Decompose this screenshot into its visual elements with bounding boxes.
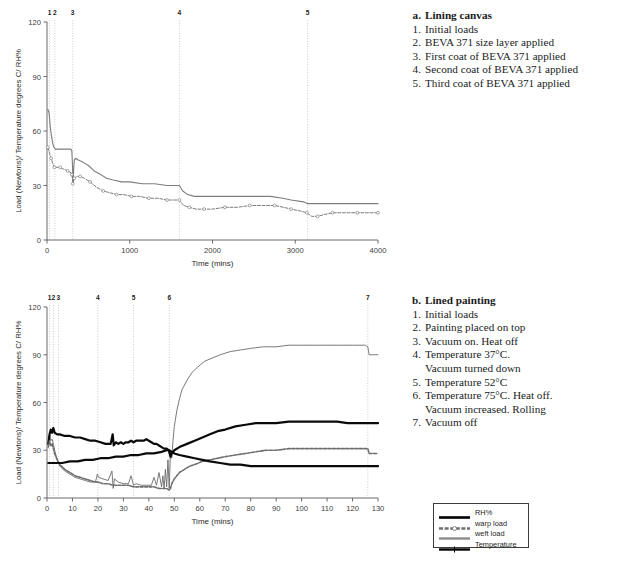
series-marker (305, 211, 308, 214)
x-axis-tick-label: 120 (346, 504, 359, 513)
caption-b-item: 7. Vacuum off (408, 416, 613, 430)
series-line-weft-load (48, 109, 378, 203)
caption-b-item-text: Vacuum off (425, 416, 613, 430)
series-marker (356, 211, 359, 214)
series-marker (71, 182, 74, 185)
y-axis-tick-label: 30 (33, 446, 41, 455)
series-line-warp-load (48, 147, 378, 216)
series-marker (46, 146, 49, 149)
series-marker (53, 166, 56, 169)
x-axis-tick-label: 50 (170, 504, 178, 513)
x-axis-tick-label: 3000 (287, 246, 304, 255)
caption-a-letter: a. (408, 9, 425, 23)
y-axis-title: Load (Newtons)/ Temperature degrees C/ R… (14, 321, 23, 485)
caption-a-item: 5. Third coat of BEVA 371 applied (408, 77, 613, 91)
event-marker-label: 2 (53, 9, 57, 16)
y-axis-tick-label: 60 (33, 399, 41, 408)
y-axis-tick-label: 30 (33, 182, 41, 191)
x-axis-tick-label: 20 (94, 504, 102, 513)
caption-b-item-continuation: Vacuum turned down (408, 362, 613, 376)
y-axis-tick-label: 0 (37, 236, 41, 245)
caption-b-item-text: Temperature 75°C. Heat off. (425, 389, 613, 403)
caption-b-item-num: 4. (408, 348, 425, 362)
caption-b-letter: b. (408, 294, 425, 308)
x-axis-tick-label: 0 (45, 504, 49, 513)
caption-b-item: 6. Temperature 75°C. Heat off. (408, 389, 613, 403)
series-marker (377, 211, 380, 214)
legend-label: warp load (475, 519, 507, 528)
legend-item: weft load (439, 529, 523, 538)
figure-root: 12345030609012001000200030004000Time (mi… (0, 0, 619, 576)
series-marker (248, 204, 251, 207)
series-marker (115, 193, 118, 196)
caption-b-item: 3. Vacuum on. Heat off (408, 335, 613, 349)
legend-label: RH% (475, 508, 492, 517)
event-marker-label: 5 (306, 9, 310, 16)
y-axis-tick-label: 90 (33, 73, 41, 82)
caption-b-item-num: 1. (408, 308, 425, 322)
caption-b-item-num: 2. (408, 321, 425, 335)
caption-a-item-text: First coat of BEVA 371 applied (425, 50, 613, 64)
caption-b-item-continuation: Vacuum increased. Rolling (408, 403, 613, 417)
event-marker-label: 6 (167, 294, 171, 301)
y-axis-tick-label: 90 (33, 351, 41, 360)
series-marker (130, 195, 133, 198)
series-marker (178, 199, 181, 202)
x-axis-tick-label: 60 (196, 504, 204, 513)
event-marker-label: 5 (132, 294, 136, 301)
x-axis-tick-label: 30 (119, 504, 127, 513)
caption-b-item-text: Initial loads (425, 308, 613, 322)
caption-b-item: 2. Painting placed on top (408, 321, 613, 335)
legend-swatch-weft-icon (439, 529, 470, 538)
caption-a-item-num: 4. (408, 63, 425, 77)
caption-b-item-num: 3. (408, 335, 425, 349)
caption-a-item: 4. Second coat of BEVA 371 applied (408, 63, 613, 77)
caption-b-heading-row: b. Lined painting (408, 294, 613, 308)
x-axis-tick-label: 4000 (370, 246, 387, 255)
legend-item: Temperature (439, 540, 523, 549)
legend-label: Temperature (475, 540, 517, 549)
x-axis-tick-label: 2000 (204, 246, 221, 255)
series-marker (59, 166, 62, 169)
series-marker (89, 180, 92, 183)
x-axis-tick-label: 130 (372, 504, 385, 513)
series-marker (147, 197, 150, 200)
y-axis-title: Load (Newtons)/ Temperature degrees C/ R… (14, 49, 23, 213)
series-marker (102, 190, 105, 193)
series-marker (66, 170, 69, 173)
event-marker-label: 4 (96, 294, 100, 301)
caption-b-item-text: Temperature 37°C. (425, 348, 613, 362)
event-marker-label: 7 (366, 294, 370, 301)
x-axis-tick-label: 1000 (121, 246, 138, 255)
caption-a-item-num: 3. (408, 50, 425, 64)
event-marker-label: 3 (71, 9, 75, 16)
caption-a-item-text: BEVA 371 size layer applied (425, 36, 613, 50)
x-axis-title: Time (mins) (192, 517, 234, 526)
series-marker (188, 206, 191, 209)
y-axis-tick-label: 60 (33, 127, 41, 136)
series-marker (223, 206, 226, 209)
x-axis-tick-label: 70 (221, 504, 229, 513)
series-marker (70, 173, 73, 176)
caption-b-item: 5. Temperature 52°C (408, 376, 613, 390)
event-marker-label: 4 (178, 9, 182, 16)
chart-panel-b: 1234567030609012001020304050607080901001… (0, 285, 400, 570)
legend-label: weft load (475, 529, 505, 538)
series-marker (316, 215, 319, 218)
series-marker (203, 208, 206, 211)
x-axis-tick-label: 0 (45, 246, 49, 255)
caption-a-item-text: Second coat of BEVA 371 applied (425, 63, 613, 77)
chart-a-plot: 12345030609012001000200030004000Time (mi… (0, 0, 400, 285)
x-axis-title: Time (mins) (192, 259, 234, 268)
y-axis-tick-label: 120 (28, 18, 41, 27)
legend-swatch-rh-icon (439, 508, 470, 517)
legend-swatch-temperature-icon (439, 540, 470, 549)
caption-lining-canvas: a. Lining canvas 1. Initial loads 2. BEV… (408, 9, 613, 91)
caption-a-heading-row: a. Lining canvas (408, 9, 613, 23)
caption-b-item-num: 6. (408, 389, 425, 403)
caption-a-item: 3. First coat of BEVA 371 applied (408, 50, 613, 64)
series-marker (73, 177, 76, 180)
event-marker-label: 3 (57, 294, 61, 301)
chart-panel-a: 12345030609012001000200030004000Time (mi… (0, 0, 400, 285)
x-axis-tick-label: 80 (246, 504, 254, 513)
